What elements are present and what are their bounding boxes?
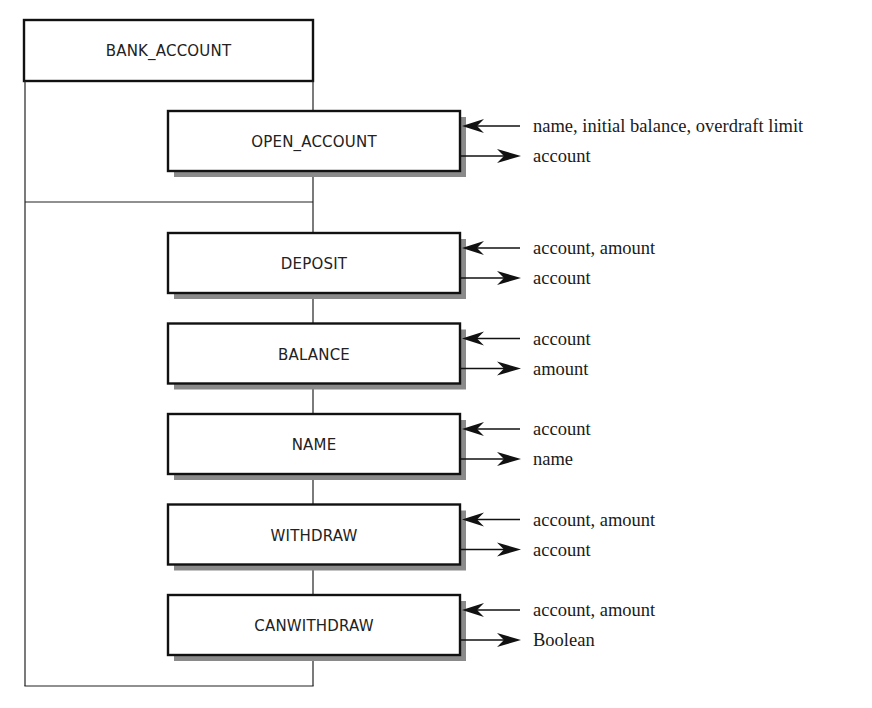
operation-open-account: OPEN_ACCOUNTname, initial balance, overd… (168, 111, 804, 177)
output-result: Boolean (533, 630, 595, 650)
output-result: account (533, 146, 591, 166)
operation-label: DEPOSIT (281, 255, 348, 273)
operation-balance: BALANCEaccountamount (168, 324, 591, 390)
output-result: account (533, 540, 591, 560)
operation-name: NAMEaccountname (168, 414, 591, 480)
operations: OPEN_ACCOUNTname, initial balance, overd… (168, 111, 804, 661)
output-result: name (533, 449, 573, 469)
operation-label: BALANCE (278, 346, 350, 364)
input-params: account, amount (533, 510, 656, 530)
input-params: account (533, 329, 591, 349)
output-result: amount (533, 359, 589, 379)
operation-canwithdraw: CANWITHDRAWaccount, amountBoolean (168, 595, 656, 661)
operation-label: OPEN_ACCOUNT (251, 133, 377, 152)
module-title: BANK_ACCOUNT (106, 42, 232, 61)
operation-withdraw: WITHDRAWaccount, amountaccount (168, 505, 656, 571)
operation-deposit: DEPOSITaccount, amountaccount (168, 233, 656, 299)
input-params: account, amount (533, 600, 656, 620)
operation-label: WITHDRAW (271, 527, 358, 545)
input-params: name, initial balance, overdraft limit (533, 116, 804, 136)
operation-label: NAME (292, 436, 337, 454)
bank-account-module-diagram: BANK_ACCOUNT OPEN_ACCOUNTname, initial b… (0, 0, 872, 708)
output-result: account (533, 268, 591, 288)
input-params: account, amount (533, 238, 656, 258)
input-params: account (533, 419, 591, 439)
operation-label: CANWITHDRAW (254, 617, 374, 635)
